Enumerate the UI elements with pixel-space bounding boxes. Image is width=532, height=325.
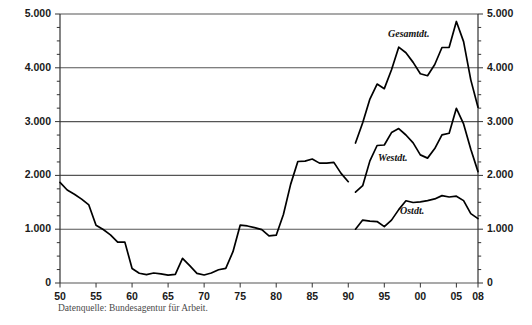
y-axis-right-tick-label: 3.000 <box>487 115 513 127</box>
y-axis-left-tick-label: 1.000 <box>0 222 51 234</box>
x-axis-tick-label: 00 <box>405 290 435 302</box>
x-axis-tick-label: 85 <box>297 290 327 302</box>
x-axis-tick-label: 90 <box>333 290 363 302</box>
unemployment-line-chart: 01.0002.0003.0004.0005.000 01.0002.0003.… <box>0 0 532 325</box>
y-axis-right-tick-label: 4.000 <box>487 61 513 73</box>
x-axis-tick-label: 55 <box>81 290 111 302</box>
y-axis-left-tick-label: 2.000 <box>0 168 51 180</box>
y-axis-right-tick-label: 0 <box>487 276 493 288</box>
y-axis-left-tick-label: 0 <box>0 276 51 288</box>
x-axis-tick-label: 70 <box>189 290 219 302</box>
y-axis-right-tick-label: 2.000 <box>487 168 513 180</box>
x-axis-tick-label: 80 <box>261 290 291 302</box>
x-axis-tick-label: 65 <box>153 290 183 302</box>
source-note: Datenquelle: Bundesagentur für Arbeit. <box>58 303 208 313</box>
chart-plot-area <box>0 0 532 325</box>
series-label-westdt: Westdt. <box>378 152 408 163</box>
y-axis-right-tick-label: 5.000 <box>487 7 513 19</box>
x-axis-tick-label: 50 <box>45 290 75 302</box>
series-line <box>355 21 478 143</box>
x-axis-tick-label: 95 <box>369 290 399 302</box>
series-line <box>60 159 348 275</box>
y-axis-left-tick-label: 5.000 <box>0 7 51 19</box>
x-axis-tick-label: 60 <box>117 290 147 302</box>
series-label-ostdt: Ostdt. <box>400 205 424 216</box>
y-axis-left-tick-label: 4.000 <box>0 61 51 73</box>
x-axis-tick-label: 08 <box>463 290 493 302</box>
y-axis-right-tick-label: 1.000 <box>487 222 513 234</box>
series-label-gesamtdt: Gesamtdt. <box>388 28 429 39</box>
y-axis-left-tick-label: 3.000 <box>0 115 51 127</box>
series-line <box>355 108 478 192</box>
x-axis-tick-label: 75 <box>225 290 255 302</box>
